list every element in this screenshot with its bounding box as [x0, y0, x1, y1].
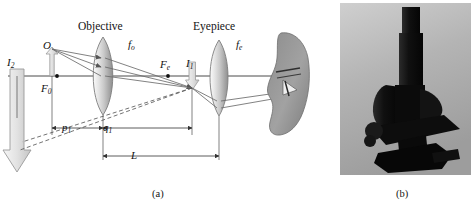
eyepiece-focus-dot: [166, 74, 170, 78]
heading-objective: Objective: [78, 20, 123, 32]
caption-panel-a: (a): [152, 188, 164, 199]
objective-focus-dot: [55, 74, 59, 78]
label-q1-sub: 1: [109, 126, 113, 135]
label-F0-text: F: [41, 82, 48, 94]
observer-head: [267, 33, 309, 135]
label-objective-focal-length: fo: [128, 39, 135, 52]
label-object-O: O: [43, 40, 51, 53]
label-eyepiece-focal-length: fe: [236, 39, 242, 52]
ray-bundle-objective-to-image: [105, 58, 192, 88]
caption-panel-b: (b): [396, 188, 408, 199]
photo-fine-focus-knob: [364, 135, 376, 147]
panel-b-photograph: (b): [340, 3, 471, 175]
label-I2-sub: 2: [11, 61, 15, 70]
label-object-distance-p1: p1: [62, 122, 71, 135]
label-eyepiece-focus: Fe: [160, 59, 170, 72]
label-object-O-text: O: [43, 39, 51, 51]
heading-eyepiece: Eyepiece: [193, 20, 235, 32]
objective-lens: [93, 37, 113, 115]
label-p1-sub: 1: [68, 126, 72, 135]
figure-compound-microscope: Objective Eyepiece O fo fe F0 Fe I1 I2 p…: [0, 0, 474, 211]
label-fe-sub: e: [239, 43, 242, 52]
label-image-distance-q1: q1: [103, 122, 112, 135]
microscope-photo: [340, 3, 471, 175]
label-final-image: I2: [7, 57, 14, 70]
label-intermediate-image: I1: [186, 58, 193, 71]
photo-eyepiece-tube: [402, 7, 420, 37]
label-Fe-sub: e: [167, 63, 170, 72]
label-objective-front-focus: F0: [41, 83, 51, 96]
photo-draw-tube: [399, 33, 423, 88]
microscope-photo-svg: [340, 3, 471, 175]
label-L-text: L: [131, 149, 137, 161]
label-F0-sub: 0: [48, 87, 52, 96]
label-Fe-text: F: [160, 58, 167, 70]
label-tube-length-L: L: [131, 150, 137, 163]
panel-a-ray-diagram: Objective Eyepiece O fo fe F0 Fe I1 I2 p…: [0, 0, 330, 211]
label-I1-sub: 1: [190, 62, 194, 71]
label-fo-sub: o: [131, 43, 135, 52]
ray-diagram-svg: [0, 0, 330, 211]
